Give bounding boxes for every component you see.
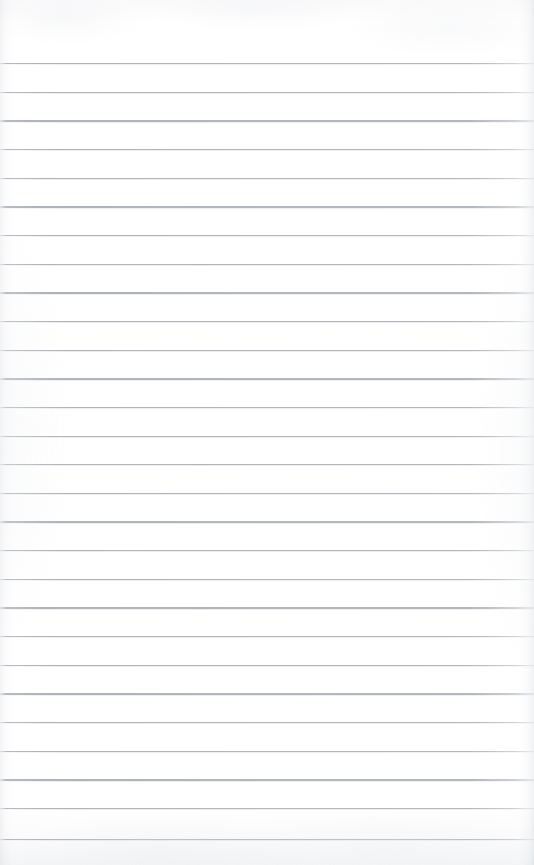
lined-paper-page	[0, 0, 534, 865]
writing-area[interactable]	[0, 63, 534, 841]
